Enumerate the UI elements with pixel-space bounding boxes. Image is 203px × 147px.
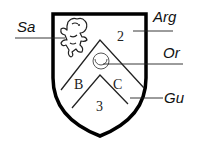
mark-3: 3: [96, 99, 103, 114]
mark-2: 2: [117, 29, 124, 44]
label-sa: Sa: [17, 18, 35, 35]
label-gu: Gu: [164, 89, 185, 106]
label-arg: Arg: [152, 8, 177, 25]
label-or: Or: [163, 44, 181, 61]
mark-b: B: [74, 77, 83, 92]
mark-c: C: [113, 77, 122, 92]
heraldry-diagram: Sa Arg Or Gu 2 B C 3: [0, 0, 203, 147]
